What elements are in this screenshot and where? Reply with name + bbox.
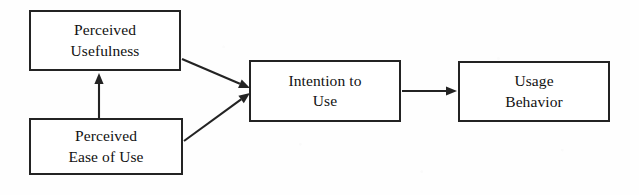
tam-diagram: Perceived Usefulness Perceived Ease of U…	[0, 0, 639, 195]
arrow-usefulness-to-intention	[182, 59, 250, 88]
node-intention-to-use[interactable]: Intention to Use	[249, 60, 401, 122]
arrow-ease-of-use-to-intention	[184, 93, 250, 141]
node-perceived-ease-of-use-label: Perceived Ease of Use	[64, 126, 147, 166]
arrow-ease-of-use-to-usefulness	[94, 73, 103, 118]
arrowhead-icon	[94, 73, 103, 84]
node-usage-behavior-label: Usage Behavior	[501, 71, 567, 111]
node-usage-behavior[interactable]: Usage Behavior	[458, 61, 610, 122]
arrow-intention-to-usage	[402, 86, 457, 95]
node-perceived-ease-of-use[interactable]: Perceived Ease of Use	[29, 118, 183, 175]
node-perceived-usefulness-label: Perceived Usefulness	[66, 20, 143, 60]
node-perceived-usefulness[interactable]: Perceived Usefulness	[29, 10, 181, 71]
node-intention-to-use-label: Intention to Use	[284, 71, 365, 111]
arrowhead-icon	[446, 86, 457, 95]
